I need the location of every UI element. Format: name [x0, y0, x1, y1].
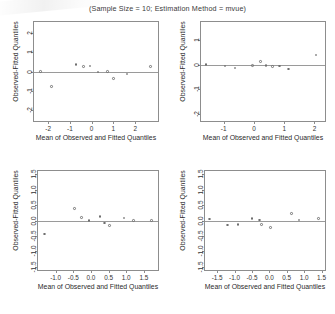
x-axis-tick-label: -1: [221, 125, 227, 132]
plot-panel-bottom-right: Observed-Fitted Quantiles -1.5-1.0-0.50.…: [167, 165, 334, 312]
y-axis-tick-label: -0.5: [30, 230, 37, 241]
reference-line-zero: [34, 72, 158, 73]
data-point: [251, 64, 254, 67]
data-point: [73, 207, 76, 210]
y-axis-title: Observed-Fitted Quantiles: [179, 12, 186, 112]
data-point: [126, 73, 129, 76]
data-point: [259, 60, 262, 63]
y-axis-tick-label: 1.0: [197, 185, 204, 194]
data-point: [39, 70, 42, 73]
y-axis-tick-label: 1: [193, 39, 200, 43]
reference-line-zero: [205, 221, 325, 222]
plot-area: -1.0-0.50.00.51.01.5-1.5-1.0-0.50.00.51.…: [37, 170, 159, 271]
data-point: [278, 65, 281, 68]
x-axis-tick-label: 0: [252, 125, 256, 132]
data-point: [234, 67, 237, 70]
plot-area: -1.5-1.0-0.50.00.51.01.5-1.5-1.0-0.50.00…: [204, 170, 326, 271]
y-axis-tick-label: -2: [193, 111, 200, 117]
x-axis-tick-label: 0.0: [265, 274, 274, 281]
y-axis-tick-label: 1.5: [30, 170, 37, 179]
x-axis-tick-label: 1: [282, 125, 286, 132]
y-axis-tick-label: -1: [26, 88, 33, 94]
data-point: [269, 226, 272, 229]
y-axis-tick-label: 1: [26, 51, 33, 55]
y-axis-tick-label: 0: [26, 70, 33, 74]
data-point: [106, 70, 109, 73]
data-point: [108, 224, 111, 227]
data-point: [82, 65, 85, 68]
x-axis-tick-label: 0.5: [104, 274, 113, 281]
x-axis-tick-label: 1: [112, 125, 116, 132]
x-axis-tick-label: -1.0: [229, 274, 240, 281]
plot-area: -2-1012-2-1012: [33, 21, 159, 122]
data-point: [251, 217, 254, 220]
y-axis-tick-label: 0.5: [197, 201, 204, 210]
y-axis-tick-label: 2: [26, 32, 33, 36]
data-point: [99, 215, 102, 218]
data-point: [149, 65, 152, 68]
data-point: [317, 217, 320, 220]
x-axis-tick-label: 1.0: [300, 274, 309, 281]
data-point: [271, 65, 274, 68]
data-point: [132, 219, 135, 222]
x-axis-tick-label: 1.5: [139, 274, 148, 281]
data-point: [89, 65, 92, 68]
data-point: [258, 219, 261, 222]
data-point: [265, 64, 268, 67]
y-axis-tick-label: -1.0: [30, 246, 37, 257]
reference-line-zero: [201, 65, 325, 66]
data-point: [287, 68, 290, 71]
x-axis-title: Mean of Observed and Fitted Quantiles: [37, 283, 159, 290]
x-axis-tick-label: 2: [313, 125, 317, 132]
y-axis-tick-label: -1: [193, 86, 200, 92]
x-axis-tick-label: 0.5: [282, 274, 291, 281]
x-axis-tick-label: -0.5: [68, 274, 79, 281]
data-point: [150, 219, 153, 222]
data-point: [88, 219, 91, 222]
data-point: [290, 212, 293, 215]
data-point: [103, 222, 106, 225]
data-point: [50, 85, 53, 88]
figure-title: (Sample Size = 10; Estimation Method = m…: [0, 4, 335, 13]
reference-line-zero: [38, 221, 158, 222]
y-axis-title: Observed-Fitted Quantiles: [179, 161, 186, 261]
y-axis-title: Observed-Fitted Quantiles: [12, 12, 19, 112]
data-point: [112, 77, 115, 80]
data-point: [315, 54, 318, 57]
plot-area: -1012-2-101: [200, 21, 326, 122]
data-point: [208, 218, 211, 221]
y-axis-tick-label: 1.5: [197, 170, 204, 179]
y-axis-tick-label: 0.0: [30, 216, 37, 225]
data-point: [226, 224, 229, 227]
x-axis-tick-label: -1: [67, 125, 73, 132]
x-axis-tick-label: -2: [45, 125, 51, 132]
y-axis-tick-label: -0.5: [197, 230, 204, 241]
x-axis-tick-label: 0.0: [86, 274, 95, 281]
y-axis-tick-label: -2: [26, 107, 33, 113]
x-axis-tick-label: 0: [90, 125, 94, 132]
y-axis-tick-label: 0: [193, 63, 200, 67]
y-axis-tick-label: -1.5: [197, 261, 204, 272]
plot-panel-top-left: Observed-Fitted Quantiles -2-1012-2-1012…: [0, 16, 167, 163]
plot-panel-top-right: Observed-Fitted Quantiles -1012-2-101 Me…: [167, 16, 334, 163]
data-point: [43, 233, 46, 236]
y-axis-title: Observed-Fitted Quantiles: [12, 161, 19, 261]
x-axis-tick-label: 2: [133, 125, 137, 132]
y-axis-tick-label: 0.0: [197, 216, 204, 225]
y-axis-tick-label: 0.5: [30, 201, 37, 210]
x-axis-tick-label: 1.0: [122, 274, 131, 281]
data-point: [260, 223, 263, 226]
x-axis-tick-label: -1.0: [50, 274, 61, 281]
y-axis-tick-label: 1.0: [30, 185, 37, 194]
y-axis-tick-label: -1.5: [30, 261, 37, 272]
x-axis-title: Mean of Observed and Fitted Quantiles: [200, 134, 326, 141]
x-axis-title: Mean of Observed and Fitted Quantiles: [204, 283, 326, 290]
data-point: [80, 216, 83, 219]
x-axis-tick-label: -0.5: [246, 274, 257, 281]
data-point: [237, 223, 240, 226]
data-point: [123, 217, 126, 220]
x-axis-tick-label: -1.5: [212, 274, 223, 281]
plot-panel-bottom-left: Observed-Fitted Quantiles -1.0-0.50.00.5…: [0, 165, 167, 312]
y-axis-tick-label: -1.0: [197, 246, 204, 257]
data-point: [75, 63, 78, 66]
